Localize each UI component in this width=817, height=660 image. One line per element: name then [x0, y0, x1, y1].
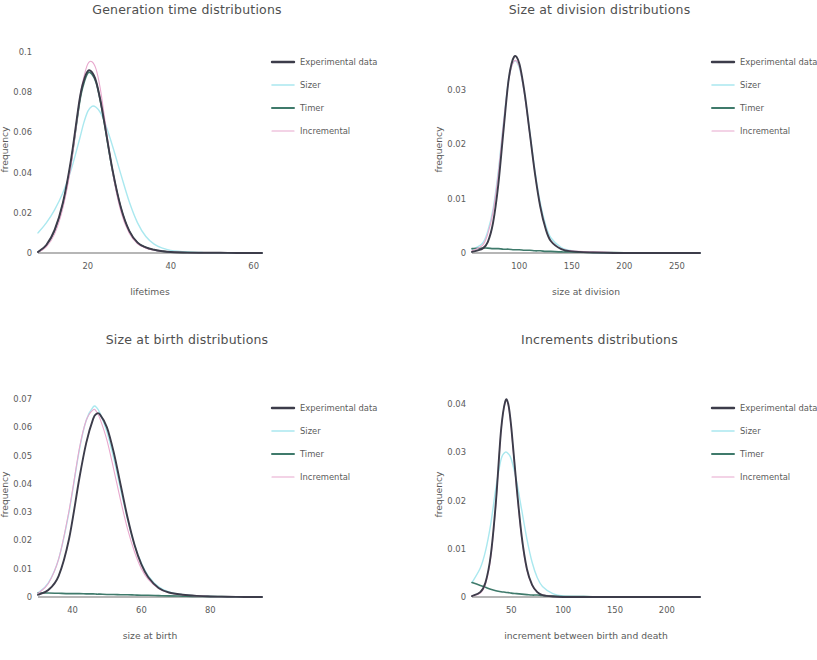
panel-title: Size at birth distributions — [0, 332, 392, 347]
y-tick-label: 0.02 — [13, 208, 32, 218]
y-tick-label: 0.03 — [447, 85, 466, 95]
x-tick-label: 80 — [205, 605, 216, 615]
panel-title: Increments distributions — [396, 332, 803, 347]
legend: Experimental dataSizerTimerIncremental — [712, 403, 817, 482]
series-curve-sizer — [472, 61, 700, 253]
series-curve-experimental-data — [472, 399, 700, 597]
x-tick-label: 150 — [564, 261, 580, 271]
legend-label-incremental: Incremental — [740, 126, 790, 136]
y-tick-label: 0 — [461, 592, 466, 602]
legend-label-timer: Timer — [739, 103, 764, 113]
panel-size-at-birth: Size at birth distributions 00.010.020.0… — [0, 330, 410, 660]
plot-generation-time: 00.020.040.060.080.1204060lifetimesfrequ… — [0, 0, 410, 330]
y-tick-label: 0.07 — [13, 394, 32, 404]
x-tick-label: 60 — [248, 261, 259, 271]
x-tick-label: 200 — [616, 261, 632, 271]
y-tick-label: 0 — [27, 248, 32, 258]
series-curve-sizer — [38, 406, 262, 597]
y-tick-label: 0.03 — [13, 507, 32, 517]
plot-size-at-division: 00.010.020.03100150200250size at divisio… — [410, 0, 817, 330]
series-curve-sizer — [38, 106, 262, 253]
x-tick-label: 250 — [669, 261, 685, 271]
x-axis-label: increment between birth and death — [504, 630, 668, 641]
y-axis-label: frequency — [433, 471, 444, 518]
legend-label-sizer: Sizer — [740, 426, 761, 436]
x-tick-label: 20 — [82, 261, 93, 271]
x-axis-label: size at birth — [123, 630, 178, 641]
legend-label-incremental: Incremental — [300, 126, 350, 136]
legend-label-sizer: Sizer — [740, 80, 761, 90]
series-curve-experimental-data — [38, 413, 262, 597]
legend: Experimental dataSizerTimerIncremental — [712, 57, 817, 136]
legend-label-incremental: Incremental — [740, 472, 790, 482]
y-tick-label: 0.06 — [13, 127, 32, 137]
y-tick-label: 0.02 — [13, 535, 32, 545]
x-tick-label: 200 — [659, 605, 675, 615]
x-tick-label: 150 — [607, 605, 623, 615]
legend-label-timer: Timer — [299, 449, 324, 459]
y-tick-label: 0 — [27, 592, 32, 602]
x-tick-label: 100 — [555, 605, 571, 615]
plot-increments: 00.010.020.030.0450100150200increment be… — [410, 330, 817, 660]
y-axis-label: frequency — [0, 126, 10, 173]
legend: Experimental dataSizerTimerIncremental — [272, 57, 377, 136]
x-axis-label: size at division — [552, 286, 620, 297]
y-tick-label: 0.02 — [447, 139, 466, 149]
series-curve-experimental-data — [472, 56, 700, 253]
series-curve-timer — [472, 583, 700, 598]
y-tick-label: 0.04 — [447, 399, 466, 409]
panel-title: Generation time distributions — [0, 2, 392, 17]
legend-label-sizer: Sizer — [300, 426, 321, 436]
series-curve-incremental — [472, 400, 700, 596]
legend-label-experimental-data: Experimental data — [300, 57, 377, 67]
legend-label-experimental-data: Experimental data — [740, 403, 817, 413]
y-tick-label: 0.01 — [447, 544, 466, 554]
y-tick-label: 0.05 — [13, 451, 32, 461]
y-axis-label: frequency — [433, 126, 444, 173]
y-tick-label: 0.01 — [447, 194, 466, 204]
x-tick-label: 60 — [136, 605, 147, 615]
legend-label-experimental-data: Experimental data — [300, 403, 377, 413]
y-tick-label: 0.01 — [13, 564, 32, 574]
y-tick-label: 0.04 — [13, 168, 32, 178]
series-curve-incremental — [38, 409, 262, 596]
legend: Experimental dataSizerTimerIncremental — [272, 403, 377, 482]
x-tick-label: 40 — [165, 261, 176, 271]
legend-label-experimental-data: Experimental data — [740, 57, 817, 67]
y-tick-label: 0.03 — [447, 447, 466, 457]
legend-label-timer: Timer — [299, 103, 324, 113]
x-tick-label: 40 — [67, 605, 78, 615]
legend-label-sizer: Sizer — [300, 80, 321, 90]
y-tick-label: 0 — [461, 248, 466, 258]
panel-size-at-division: Size at division distributions 00.010.02… — [410, 0, 817, 330]
y-tick-label: 0.02 — [447, 496, 466, 506]
panel-generation-time: Generation time distributions 00.020.040… — [0, 0, 410, 330]
series-curve-sizer — [472, 452, 700, 597]
series-curve-incremental — [472, 60, 700, 252]
series-curve-experimental-data — [38, 70, 262, 253]
panel-title: Size at division distributions — [396, 2, 803, 17]
y-tick-label: 0.06 — [13, 422, 32, 432]
legend-label-incremental: Incremental — [300, 472, 350, 482]
y-tick-label: 0.08 — [13, 87, 32, 97]
panel-increments: Increments distributions 00.010.020.030.… — [410, 330, 817, 660]
x-axis-label: lifetimes — [130, 286, 170, 297]
y-tick-label: 0.1 — [19, 47, 32, 57]
plot-size-at-birth: 00.010.020.030.040.050.060.07406080size … — [0, 330, 410, 660]
y-tick-label: 0.04 — [13, 479, 32, 489]
y-axis-label: frequency — [0, 471, 10, 518]
legend-label-timer: Timer — [739, 449, 764, 459]
figure-grid: Generation time distributions 00.020.040… — [0, 0, 817, 660]
x-tick-label: 50 — [506, 605, 517, 615]
x-tick-label: 100 — [511, 261, 527, 271]
